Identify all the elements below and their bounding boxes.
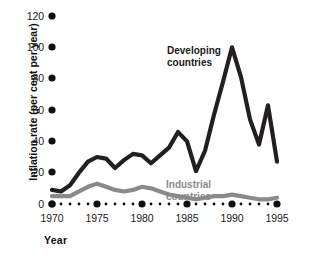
x-minor-dot-1983 [168, 203, 171, 206]
series-annotation-industrial-line2: countries [166, 191, 211, 203]
x-minor-dot-1977 [114, 203, 117, 206]
x-minor-dot-1982 [159, 203, 162, 206]
series-annotation-developing-line2: countries [167, 57, 221, 69]
x-minor-dot-1991 [240, 203, 243, 206]
y-tick-dot-60 [48, 106, 55, 113]
y-tick-dot-80 [48, 74, 55, 81]
x-minor-dot-1987 [204, 203, 207, 206]
x-minor-dot-1973 [78, 203, 81, 206]
series-annotation-developing-countries: Developing countries [167, 45, 221, 68]
x-minor-dot-1981 [150, 203, 153, 206]
y-tick-dot-20 [48, 168, 55, 175]
x-tick-dot-1970 [48, 200, 55, 207]
x-minor-dot-1993 [258, 203, 261, 206]
x-minor-dot-1989 [222, 203, 225, 206]
x-axis-title: Year [44, 234, 67, 246]
x-axis-dotted-baseline [48, 200, 280, 207]
x-minor-dot-1976 [105, 203, 108, 206]
x-minor-dot-1994 [267, 203, 270, 206]
y-tick-dot-40 [48, 137, 55, 144]
inflation-rate-line-chart: 120 100 80 60 40 20 0 1970 1975 1980 198… [0, 0, 310, 260]
y-tick-dot-120 [48, 12, 55, 19]
x-tick-label-1990: 1990 [212, 212, 252, 224]
x-minor-dot-1978 [123, 203, 126, 206]
x-tick-dot-1990 [228, 200, 235, 207]
series-line-industrial-countries [52, 184, 277, 200]
x-tick-label-1995: 1995 [257, 212, 297, 224]
x-minor-dot-1979 [132, 203, 135, 206]
series-line-developing-countries [52, 47, 277, 191]
x-tick-dot-1980 [138, 200, 145, 207]
x-tick-label-1975: 1975 [77, 212, 117, 224]
x-minor-dot-1984 [177, 203, 180, 206]
x-tick-dot-1975 [93, 200, 100, 207]
x-minor-dot-1988 [213, 203, 216, 206]
x-minor-dot-1972 [69, 203, 72, 206]
x-minor-dot-1971 [60, 203, 63, 206]
series-annotation-industrial-line1: Industrial [166, 179, 211, 191]
y-tick-dot-100 [48, 43, 55, 50]
x-minor-dot-1974 [87, 203, 90, 206]
y-axis-tick-dots [48, 12, 55, 207]
x-minor-dot-1986 [195, 203, 198, 206]
series-annotation-industrial-countries: Industrial countries [166, 179, 211, 202]
x-tick-label-1980: 1980 [122, 212, 162, 224]
x-tick-dot-1995 [273, 200, 280, 207]
y-tick-label-0: 0 [10, 198, 44, 210]
x-tick-label-1970: 1970 [32, 212, 72, 224]
series-annotation-developing-line1: Developing [167, 45, 221, 57]
x-tick-label-1985: 1985 [167, 212, 207, 224]
y-axis-title: Inflation rate (per cent per year) [27, 17, 39, 187]
x-minor-dot-1992 [249, 203, 252, 206]
